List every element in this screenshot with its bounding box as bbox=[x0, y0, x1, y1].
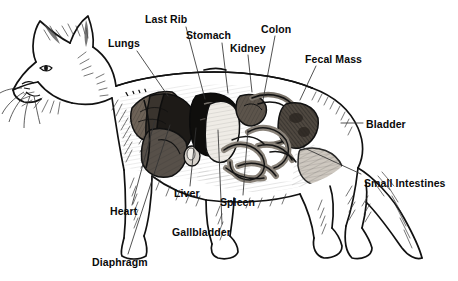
label-gallbladder: Gallbladder bbox=[172, 227, 231, 238]
label-liver: Liver bbox=[174, 188, 200, 199]
cat-face-features bbox=[0, 20, 88, 128]
label-small-intestines: Small Intestines bbox=[364, 178, 446, 189]
label-kidney: Kidney bbox=[230, 43, 266, 54]
leader-line-fecal-mass bbox=[300, 66, 316, 100]
cat-anatomy-diagram: LungsLast RibStomachKidneyColonFecal Mas… bbox=[0, 0, 458, 281]
label-spleen: Spleen bbox=[220, 197, 255, 208]
label-bladder: Bladder bbox=[366, 119, 406, 130]
cat-anatomy-illustration bbox=[0, 0, 458, 281]
label-heart: Heart bbox=[110, 206, 137, 217]
label-lungs: Lungs bbox=[108, 38, 140, 49]
label-fecal-mass: Fecal Mass bbox=[305, 54, 362, 65]
label-last-rib: Last Rib bbox=[145, 14, 187, 25]
label-diaphragm: Diaphragm bbox=[92, 257, 148, 268]
label-colon: Colon bbox=[261, 24, 291, 35]
label-stomach: Stomach bbox=[186, 30, 231, 41]
